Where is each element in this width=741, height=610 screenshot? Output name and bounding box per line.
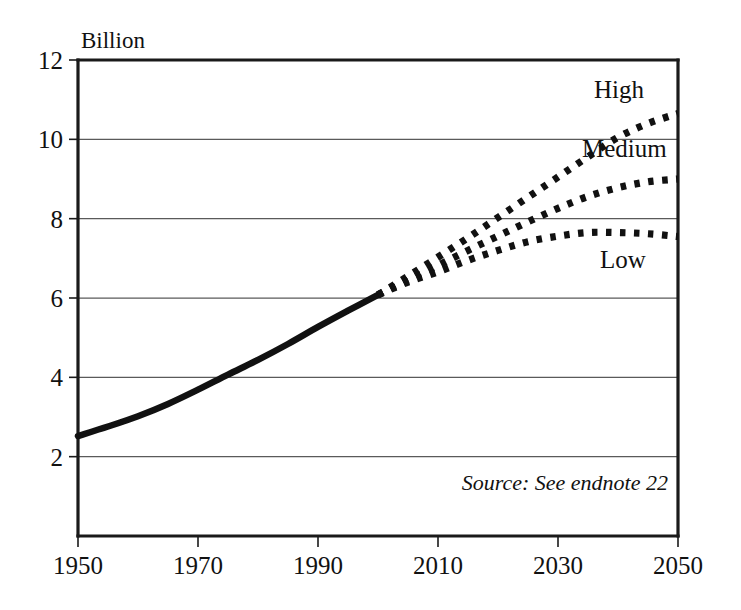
- population-projection-chart: 24681012 195019701990201020302050 HighMe…: [0, 0, 741, 610]
- y-tick-label: 10: [38, 126, 63, 153]
- x-tick-label: 1970: [173, 552, 223, 579]
- x-tick-label: 2010: [413, 552, 463, 579]
- series-labels: HighMediumLow: [582, 76, 667, 274]
- y-tick-label: 8: [51, 206, 64, 233]
- series-label-medium: Medium: [582, 135, 667, 162]
- series-label-low: Low: [600, 246, 646, 273]
- y-tick-label: 12: [38, 47, 63, 74]
- x-tick-label: 2050: [653, 552, 703, 579]
- series-line-historical: [78, 295, 378, 436]
- y-tick-label: 4: [51, 364, 64, 391]
- chart-canvas: 24681012 195019701990201020302050 HighMe…: [0, 0, 741, 610]
- x-axis-ticks: 195019701990201020302050: [53, 536, 703, 579]
- series-line-medium: [378, 179, 678, 295]
- y-tick-label: 2: [51, 444, 64, 471]
- source-note: Source: See endnote 22: [462, 470, 668, 495]
- series-label-high: High: [594, 76, 645, 103]
- y-axis-unit-label: Billion: [81, 28, 145, 53]
- y-tick-label: 6: [51, 285, 64, 312]
- x-tick-label: 1950: [53, 552, 103, 579]
- y-axis-ticks: 24681012: [38, 47, 78, 471]
- x-tick-label: 2030: [533, 552, 583, 579]
- x-tick-label: 1990: [293, 552, 343, 579]
